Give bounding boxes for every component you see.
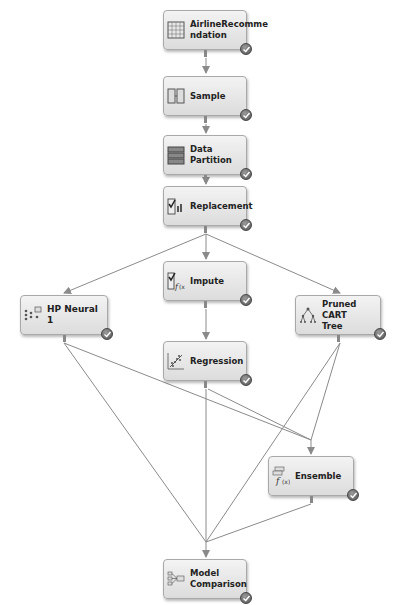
status-check-icon [240,109,252,121]
node-regression[interactable]: Regression [163,341,247,381]
svg-text:f: f [275,476,281,486]
node-replacement[interactable]: Replacement [163,186,247,226]
svg-text:(x): (x) [179,283,185,290]
output-port[interactable] [204,175,207,182]
status-check-icon [240,294,252,306]
node-label: Sample [190,91,225,102]
output-port[interactable] [204,301,207,308]
edge-cart-ensemble[interactable] [311,343,340,440]
output-port[interactable] [204,226,207,233]
node-label: Ensemble [295,471,341,482]
node-label: Replacement [190,201,253,212]
process-flow-canvas[interactable]: AirlineRecommendation Sample Data Partit… [0,0,403,605]
svg-text:(x): (x) [282,478,290,485]
data-partition-icon [167,145,185,165]
node-label: ModelComparison [190,568,247,590]
neural-network-icon [24,305,42,325]
node-label: Impute [190,276,224,287]
data-source-icon [167,20,185,40]
node-impute[interactable]: f(x) Impute [163,261,247,301]
edge-regression-ensemble[interactable] [208,389,311,440]
edge-ensemble-modelcomp[interactable] [206,504,311,542]
output-port[interactable] [337,335,340,342]
node-model-comparison[interactable]: ModelComparison [163,559,247,599]
status-check-icon [240,43,252,55]
output-port[interactable] [63,335,66,342]
output-port[interactable] [204,116,207,123]
node-sample[interactable]: Sample [163,76,247,116]
node-label: HP Neural 1 [47,304,107,326]
node-data-partition[interactable]: Data Partition [163,135,247,175]
node-hp-neural-1[interactable]: HP Neural 1 [20,295,108,335]
decision-tree-icon [299,305,317,325]
node-label: AirlineRecommendation [190,19,268,41]
node-label: Pruned CARTTree [322,299,380,332]
node-airline-recommendation[interactable]: AirlineRecommendation [163,10,247,50]
node-label: Regression [190,356,243,367]
node-label: Data Partition [190,144,246,166]
status-check-icon [240,219,252,231]
status-check-icon [347,489,359,501]
node-ensemble[interactable]: f(x) Ensemble [268,456,354,496]
status-check-icon [240,592,252,604]
status-check-icon [240,374,252,386]
replacement-icon [167,196,185,216]
output-port[interactable] [204,381,207,388]
node-pruned-cart-tree[interactable]: Pruned CARTTree [295,295,381,335]
output-port[interactable] [310,496,313,503]
ensemble-icon: f(x) [272,466,290,486]
output-port[interactable] [204,50,207,57]
status-check-icon [101,328,113,340]
sample-icon [167,86,185,106]
status-check-icon [240,168,252,180]
status-check-icon [374,328,386,340]
impute-icon: f(x) [167,271,185,291]
regression-icon [167,351,185,371]
model-comparison-icon [167,569,185,589]
